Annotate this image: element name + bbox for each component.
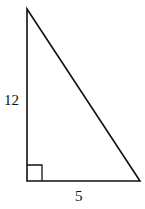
right-angle-marker xyxy=(27,165,42,181)
triangle-diagram: 12 5 xyxy=(0,0,145,209)
vertical-leg-label: 12 xyxy=(4,92,19,108)
horizontal-leg-label: 5 xyxy=(75,188,83,204)
right-triangle xyxy=(27,9,140,181)
